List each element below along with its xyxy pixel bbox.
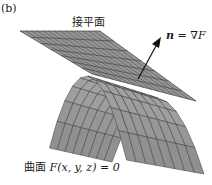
tangent-plane-figure: (b) 接平面 n = ∇F 曲面 F(x, y, z) = 0 [0,0,212,185]
normal-arrow-head [152,37,161,48]
normal-vector-label: n = ∇F [166,29,206,42]
panel-label: (b) [1,2,17,15]
gradient-symbol: = ∇ [174,29,198,42]
normal-vector-symbol: n [166,29,174,42]
function-symbol: F [198,29,206,42]
surface-equation: F(x, y, z) = 0 [50,161,120,174]
surface-label: 曲面 F(x, y, z) = 0 [24,158,120,174]
surface-label-prefix: 曲面 [24,161,50,174]
tangent-plane-label: 接平面 [72,13,105,29]
